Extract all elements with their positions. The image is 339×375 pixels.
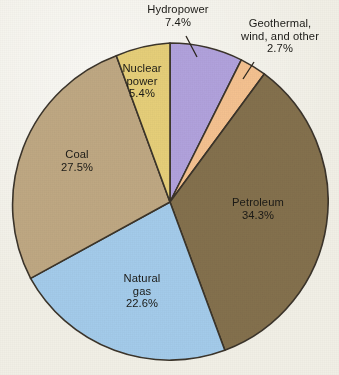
- slice-label-coal-name: Coal: [33, 148, 121, 161]
- slice-label-natural-gas-name-line1: Natural: [98, 272, 186, 285]
- slice-label-geothermal-name-line1: Geothermal,: [222, 17, 338, 30]
- slice-label-natural-gas-name-line2: gas: [98, 285, 186, 298]
- slice-label-hydropower-name: Hydropower: [118, 3, 238, 16]
- slice-label-nuclear-power: Nuclear power 5.4%: [104, 62, 180, 100]
- slice-label-nuclear-power-name-line2: power: [104, 75, 180, 88]
- pie-chart-canvas: [0, 0, 339, 375]
- slice-label-petroleum-name: Petroleum: [212, 196, 304, 209]
- slice-label-hydropower-value: 7.4%: [118, 16, 238, 29]
- slice-label-geothermal-name-line2: wind, and other: [222, 30, 338, 43]
- pie-chart-figure: Hydropower 7.4% Geothermal, wind, and ot…: [0, 0, 339, 375]
- slice-label-nuclear-power-value: 5.4%: [104, 87, 180, 100]
- slice-label-natural-gas: Natural gas 22.6%: [98, 272, 186, 310]
- slice-label-coal: Coal 27.5%: [33, 148, 121, 173]
- slice-label-petroleum-value: 34.3%: [212, 209, 304, 222]
- slice-label-petroleum: Petroleum 34.3%: [212, 196, 304, 221]
- slice-label-coal-value: 27.5%: [33, 161, 121, 174]
- slice-label-hydropower: Hydropower 7.4%: [118, 3, 238, 28]
- slice-label-nuclear-power-name-line1: Nuclear: [104, 62, 180, 75]
- slice-label-geothermal-value: 2.7%: [222, 42, 338, 55]
- slice-label-geothermal: Geothermal, wind, and other 2.7%: [222, 17, 338, 55]
- slice-label-natural-gas-value: 22.6%: [98, 297, 186, 310]
